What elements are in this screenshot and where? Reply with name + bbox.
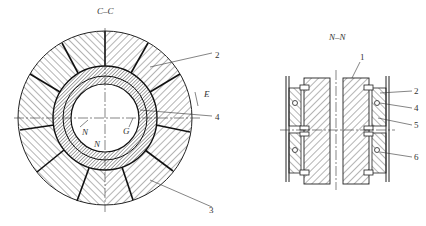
label-part-3: 3 <box>209 205 214 215</box>
jaw-left <box>304 78 330 184</box>
label-part-1: 1 <box>360 52 365 62</box>
view-title-c-c: C–C <box>97 6 115 16</box>
label-part-6: 6 <box>414 152 419 162</box>
label-part-2: 2 <box>215 50 220 60</box>
label-part-4: 4 <box>215 112 220 122</box>
side-holders <box>289 88 386 173</box>
label-e: E <box>203 89 210 99</box>
label-part-5: 5 <box>414 120 419 130</box>
label-part-2-nn: 2 <box>414 86 419 96</box>
label-part-4-nn: 4 <box>414 103 419 113</box>
section-view-c-c: C–C <box>14 6 220 215</box>
label-n-lower: N <box>93 139 101 149</box>
view-title-n-n: N–N <box>328 32 347 42</box>
jaw-right <box>343 78 369 184</box>
label-n-upper: N <box>81 127 89 137</box>
technical-drawing: C–C <box>0 0 426 226</box>
section-view-n-n: N–N <box>280 32 419 190</box>
label-g: G <box>123 126 130 136</box>
